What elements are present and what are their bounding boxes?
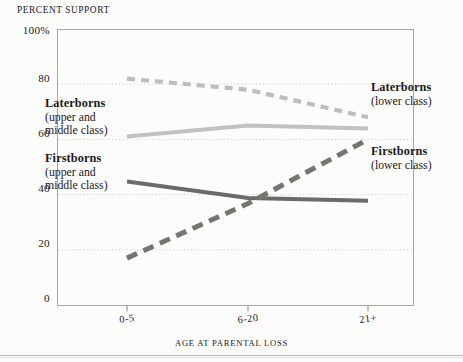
annotation-heading: Firstborns (371, 145, 432, 159)
annotation-heading: Laterborns (371, 81, 432, 95)
plot-frame (58, 30, 414, 306)
page-edge-line (0, 355, 463, 356)
annotation-line1: (upper and (45, 111, 108, 124)
annotation-line1: (upper and (45, 166, 108, 179)
x-axis-ticks (127, 306, 368, 312)
annotation-line1: (lower class) (371, 95, 432, 108)
annotation-line2: middle class) (45, 179, 108, 192)
page-edge-shadow (0, 357, 463, 358)
annotation-heading: Firstborns (45, 152, 108, 166)
annotation-firstborns-upper-middle: Firstborns (upper and middle class) (45, 152, 108, 193)
annotation-laterborns-upper-middle: Laterborns (upper and middle class) (45, 97, 108, 138)
annotation-line1: (lower class) (371, 159, 432, 172)
annotation-laterborns-lower: Laterborns (lower class) (371, 81, 432, 108)
chart-page: PERCENT SUPPORT 100% 80 60 40 20 0 0-5 6… (0, 0, 463, 362)
annotation-line2: middle class) (45, 124, 108, 137)
annotation-heading: Laterborns (45, 97, 108, 111)
annotation-firstborns-lower: Firstborns (lower class) (371, 145, 432, 172)
gridlines (58, 84, 413, 250)
series-laterborns-upper-middle-class (127, 126, 368, 137)
series-firstborns-upper-middle-class (127, 182, 368, 201)
